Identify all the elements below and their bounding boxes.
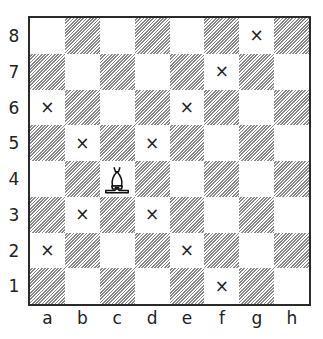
rank-label-6: 6 (6, 100, 22, 117)
file-label-b: b (65, 310, 100, 327)
square-g6[interactable] (239, 90, 274, 126)
square-a2[interactable]: × (30, 233, 65, 269)
rank-label-5: 5 (6, 135, 22, 152)
square-e2[interactable]: × (170, 233, 205, 269)
square-a1[interactable] (30, 268, 65, 304)
square-c2[interactable] (100, 233, 135, 269)
x-mark-icon: × (180, 99, 194, 116)
square-f8[interactable] (204, 18, 239, 54)
square-a8[interactable] (30, 18, 65, 54)
square-h3[interactable] (274, 197, 309, 233)
square-g8[interactable]: × (239, 18, 274, 54)
square-c1[interactable] (100, 268, 135, 304)
rank-label-7: 7 (6, 64, 22, 81)
square-d6[interactable] (135, 90, 170, 126)
square-b2[interactable] (65, 233, 100, 269)
file-label-e: e (170, 310, 205, 327)
square-f1[interactable]: × (204, 268, 239, 304)
square-h7[interactable] (274, 54, 309, 90)
square-c6[interactable] (100, 90, 135, 126)
rank-label-3: 3 (6, 207, 22, 224)
square-h8[interactable] (274, 18, 309, 54)
square-d7[interactable] (135, 54, 170, 90)
square-c8[interactable] (100, 18, 135, 54)
rank-label-2: 2 (6, 243, 22, 260)
square-b8[interactable] (65, 18, 100, 54)
square-e3[interactable] (170, 197, 205, 233)
rank-label-8: 8 (6, 28, 22, 45)
square-g3[interactable] (239, 197, 274, 233)
square-f6[interactable] (204, 90, 239, 126)
square-e7[interactable] (170, 54, 205, 90)
square-a3[interactable] (30, 197, 65, 233)
square-f2[interactable] (204, 233, 239, 269)
square-e4[interactable] (170, 161, 205, 197)
square-b1[interactable] (65, 268, 100, 304)
x-mark-icon: × (250, 27, 264, 44)
x-mark-icon: × (145, 135, 159, 152)
square-d8[interactable] (135, 18, 170, 54)
square-f7[interactable]: × (204, 54, 239, 90)
square-d5[interactable]: × (135, 125, 170, 161)
x-mark-icon: × (215, 278, 229, 295)
file-label-d: d (135, 310, 170, 327)
square-a4[interactable] (30, 161, 65, 197)
file-label-h: h (274, 310, 309, 327)
x-mark-icon: × (180, 242, 194, 259)
square-b4[interactable] (65, 161, 100, 197)
square-h5[interactable] (274, 125, 309, 161)
square-h1[interactable] (274, 268, 309, 304)
file-label-f: f (205, 310, 240, 327)
square-d2[interactable] (135, 233, 170, 269)
x-mark-icon: × (75, 206, 89, 223)
chessboard: ××××××××××× (28, 16, 311, 306)
square-d1[interactable] (135, 268, 170, 304)
x-mark-icon: × (145, 206, 159, 223)
x-mark-icon: × (215, 63, 229, 80)
square-e8[interactable] (170, 18, 205, 54)
square-a5[interactable] (30, 125, 65, 161)
square-b5[interactable]: × (65, 125, 100, 161)
square-f4[interactable] (204, 161, 239, 197)
square-e1[interactable] (170, 268, 205, 304)
square-g2[interactable] (239, 233, 274, 269)
square-f5[interactable] (204, 125, 239, 161)
square-c7[interactable] (100, 54, 135, 90)
square-a6[interactable]: × (30, 90, 65, 126)
square-b6[interactable] (65, 90, 100, 126)
square-d4[interactable] (135, 161, 170, 197)
square-d3[interactable]: × (135, 197, 170, 233)
file-label-g: g (239, 310, 274, 327)
square-c3[interactable] (100, 197, 135, 233)
rank-label-4: 4 (6, 171, 22, 188)
square-e5[interactable] (170, 125, 205, 161)
square-g1[interactable] (239, 268, 274, 304)
square-h2[interactable] (274, 233, 309, 269)
x-mark-icon: × (75, 135, 89, 152)
square-c5[interactable] (100, 125, 135, 161)
square-c4[interactable] (100, 161, 135, 197)
square-g5[interactable] (239, 125, 274, 161)
file-label-c: c (100, 310, 135, 327)
square-h4[interactable] (274, 161, 309, 197)
square-b3[interactable]: × (65, 197, 100, 233)
square-h6[interactable] (274, 90, 309, 126)
white-bishop-icon[interactable] (102, 165, 132, 195)
square-g7[interactable] (239, 54, 274, 90)
square-g4[interactable] (239, 161, 274, 197)
x-mark-icon: × (40, 242, 54, 259)
square-f3[interactable] (204, 197, 239, 233)
rank-label-1: 1 (6, 278, 22, 295)
square-b7[interactable] (65, 54, 100, 90)
square-e6[interactable]: × (170, 90, 205, 126)
file-label-a: a (30, 310, 65, 327)
x-mark-icon: × (40, 99, 54, 116)
square-a7[interactable] (30, 54, 65, 90)
